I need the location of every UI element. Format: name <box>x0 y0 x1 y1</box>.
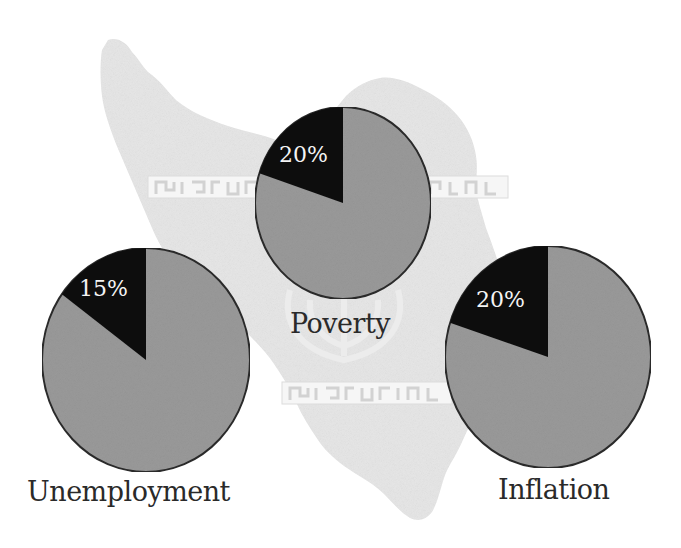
label-inflation: Inflation <box>498 474 609 505</box>
label-poverty: Poverty <box>290 308 390 339</box>
pct-label-inflation: 20% <box>476 287 525 312</box>
pie-unemployment <box>42 248 250 472</box>
pct-label-unemployment: 15% <box>79 276 128 301</box>
pie-poverty <box>255 107 431 299</box>
chart-canvas <box>0 0 681 548</box>
label-unemployment: Unemployment <box>27 476 230 507</box>
pct-label-poverty: 20% <box>279 142 328 167</box>
pie-inflation <box>445 246 651 468</box>
pie-chart-figure: 15% 20% 20% Unemployment Poverty Inflati… <box>0 0 681 548</box>
